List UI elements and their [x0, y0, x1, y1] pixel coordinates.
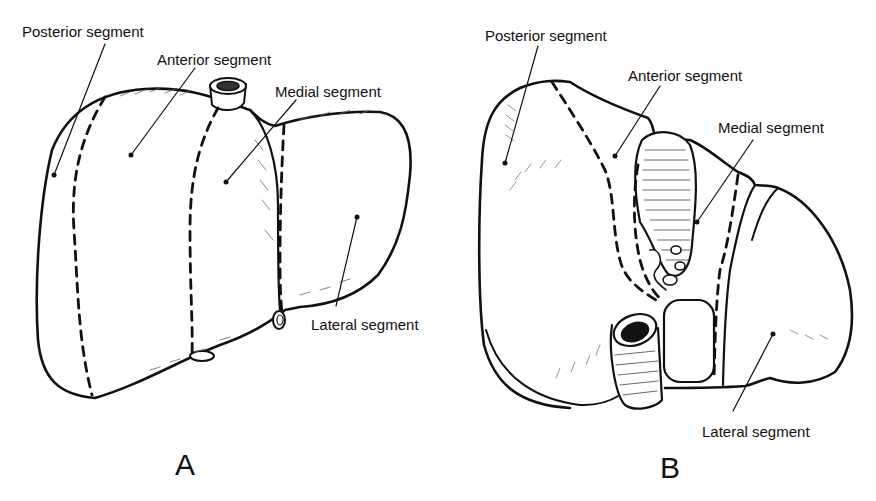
panel-a-letter: A — [175, 450, 195, 480]
ivc-a — [210, 78, 246, 110]
label-a-posterior-segment: Posterior segment — [22, 24, 144, 39]
label-b-anterior-segment: Anterior segment — [628, 68, 742, 83]
vessel-a-2 — [190, 351, 214, 361]
liver-a-outline — [37, 89, 411, 398]
panel-b-letter: B — [660, 453, 680, 483]
label-a-medial-segment: Medial segment — [275, 84, 381, 99]
label-a-lateral-segment: Lateral segment — [311, 317, 419, 332]
label-b-medial-segment: Medial segment — [718, 120, 824, 135]
label-b-lateral-segment: Lateral segment — [702, 424, 810, 439]
label-a-anterior-segment: Anterior segment — [157, 52, 271, 67]
label-b-posterior-segment: Posterior segment — [485, 28, 607, 43]
gallbladder-b — [664, 300, 714, 382]
panel-a-liver-drawing — [37, 78, 411, 398]
